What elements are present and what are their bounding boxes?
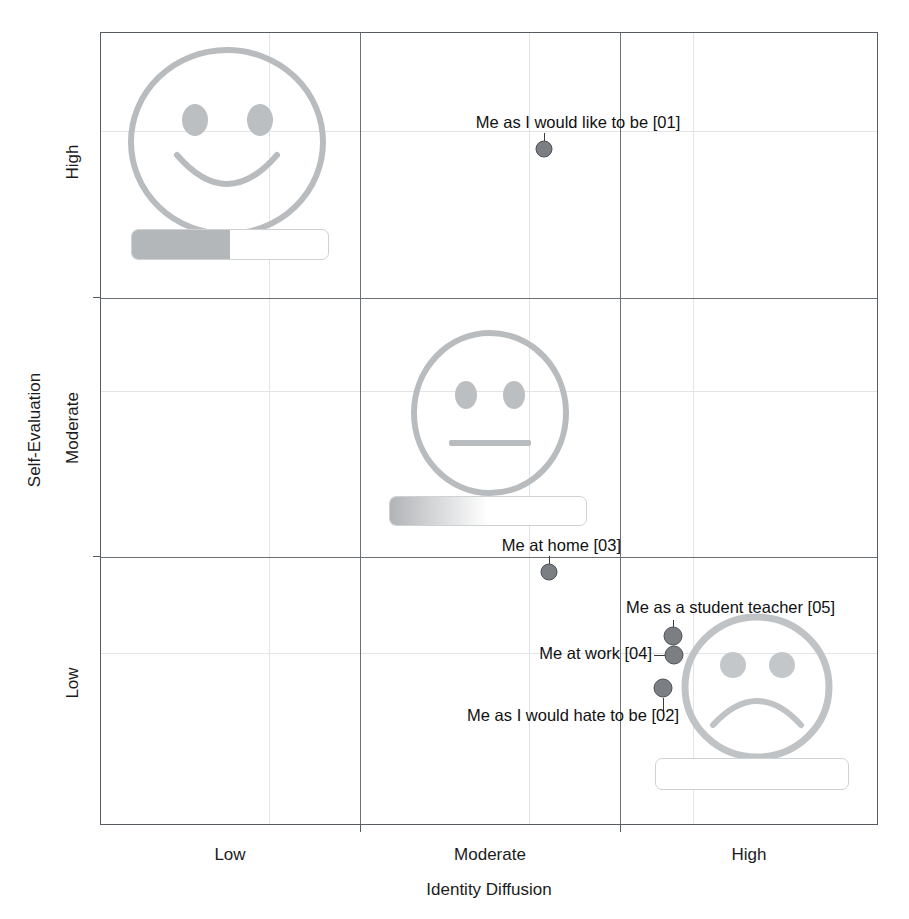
gridline-minor-horizontal	[101, 391, 877, 392]
neutral-face-icon	[409, 329, 571, 497]
gridline-minor-vertical	[693, 33, 694, 824]
gridline-major-horizontal	[101, 298, 877, 299]
y-tick-mark	[93, 297, 100, 298]
happy-meter-bar	[131, 229, 329, 260]
sad-face-icon	[679, 613, 835, 761]
neutral-meter-bar	[389, 496, 587, 526]
x-axis-title: Identity Diffusion	[426, 880, 551, 900]
sad-meter-bar	[655, 758, 849, 790]
plot-area: Me as I would like to be [01] Me at home…	[100, 32, 878, 825]
x-tick-label-low: Low	[214, 845, 245, 865]
data-label-04: Me at work [04]	[539, 644, 652, 663]
identity-diffusion-self-evaluation-chart: Me as I would like to be [01] Me at home…	[0, 0, 909, 919]
data-label-02: Me as I would hate to be [02]	[467, 706, 679, 725]
data-point-04[interactable]	[665, 646, 684, 665]
gridline-major-horizontal	[101, 557, 877, 558]
y-tick-label-moderate: Moderate	[63, 373, 83, 483]
x-tick-label-moderate: Moderate	[454, 845, 526, 865]
gridline-minor-horizontal	[101, 653, 877, 654]
data-label-05: Me as a student teacher [05]	[626, 598, 835, 617]
data-label-03: Me at home [03]	[502, 536, 621, 555]
y-tick-label-high: High	[63, 132, 83, 192]
x-tick-mark	[620, 825, 621, 832]
gridline-major-vertical	[360, 33, 361, 824]
data-point-02[interactable]	[654, 679, 673, 698]
gridline-minor-vertical	[269, 33, 270, 824]
x-tick-label-high: High	[732, 845, 767, 865]
y-tick-mark	[93, 556, 100, 557]
happy-meter-fill	[132, 230, 230, 259]
x-tick-mark	[360, 825, 361, 832]
data-point-01[interactable]	[536, 141, 553, 158]
data-point-03[interactable]	[541, 564, 558, 581]
data-label-01: Me as I would like to be [01]	[476, 113, 681, 132]
data-point-05[interactable]	[664, 627, 683, 646]
happy-face-icon	[121, 43, 333, 248]
y-axis-title: Self-Evaluation	[25, 350, 45, 510]
y-tick-label-low: Low	[63, 653, 83, 713]
neutral-meter-fill	[390, 497, 488, 525]
